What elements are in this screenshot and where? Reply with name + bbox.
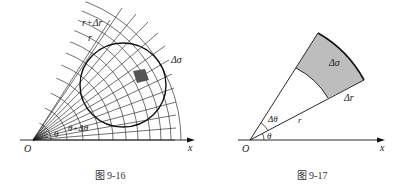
label-theta: θ: [267, 131, 272, 141]
diagram-canvas: r+Δr r Δσ θ θ+Δθ O x 图 9-16 Δσ Δr r Δθ θ…: [0, 0, 396, 186]
label-r: r: [88, 32, 92, 43]
label-x-axis: x: [187, 142, 193, 153]
label-delta-sigma: Δσ: [170, 54, 183, 65]
label-theta: θ: [54, 129, 59, 139]
label-delta-theta: Δθ: [267, 114, 278, 124]
label-r-plus-delta-r: r+Δr: [82, 17, 103, 28]
label-delta-sigma: Δσ: [328, 57, 341, 68]
caption-fig-9-17: 图 9-17: [297, 170, 328, 181]
ray-upper: [250, 33, 318, 140]
region-boundary-circle: [80, 43, 166, 127]
label-r: r: [298, 115, 302, 125]
caption-fig-9-16: 图 9-16: [95, 170, 126, 181]
figure-9-17: Δσ Δr r Δθ θ O x 图 9-17: [238, 33, 385, 181]
label-theta-plus-delta-theta: θ+Δθ: [68, 123, 89, 133]
label-x-axis: x: [379, 142, 385, 153]
label-origin: O: [242, 143, 249, 154]
label-delta-r: Δr: [343, 92, 354, 103]
angle-arc-delta-theta: [261, 123, 268, 131]
label-origin: O: [24, 143, 31, 154]
angle-arc-theta: [262, 134, 264, 141]
figure-9-16: r+Δr r Δσ θ θ+Δθ O x 图 9-16: [0, 0, 195, 186]
